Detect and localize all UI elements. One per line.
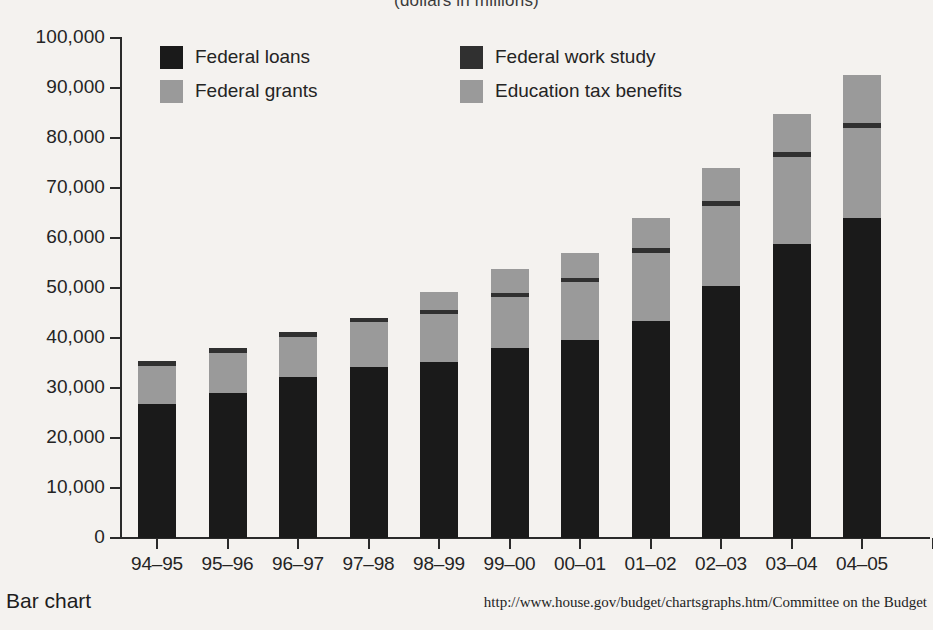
y-tick [110,237,121,239]
bar-segment [350,367,388,539]
y-tick-label: 10,000 [5,476,105,498]
y-tick-label: 60,000 [5,226,105,248]
bar-segment [632,218,670,248]
legend-swatch-icon [160,46,183,69]
x-tick-label: 00–01 [540,553,620,575]
x-tick [650,538,652,549]
bar-segment [843,128,881,218]
bar-segment [843,75,881,123]
bar-94-95 [138,361,176,538]
bar-segment [632,321,670,539]
bar-segment [209,353,247,394]
legend-item: Federal loans [160,46,460,69]
bar-segment [702,286,740,539]
legend-swatch-icon [460,46,483,69]
bar-95-96 [209,348,247,538]
y-tick [110,437,121,439]
x-tick-label: 03–04 [752,553,832,575]
bar-01-02 [632,218,670,538]
bar-segment [279,337,317,377]
x-tick-label: 97–98 [329,553,409,575]
bar-segment [491,348,529,539]
legend-label: Federal grants [195,80,318,102]
legend-label: Education tax benefits [495,80,682,102]
y-tick-label: 30,000 [5,376,105,398]
legend-swatch-icon [460,80,483,103]
legend-label: Federal loans [195,46,310,68]
chart-legend: Federal loansFederal work studyFederal g… [160,40,740,108]
y-tick [110,187,121,189]
legend-item: Education tax benefits [460,80,760,103]
y-tick-label: 90,000 [5,76,105,98]
legend-item: Federal grants [160,80,460,103]
bar-segment [773,244,811,538]
y-tick [110,287,121,289]
x-tick-label: 94–95 [117,553,197,575]
bar-02-03 [702,168,740,538]
footer-source-url: http://www.house.gov/budget/chartsgraphs… [484,594,927,611]
bar-segment [702,206,740,286]
bar-99-00 [491,269,529,539]
y-tick [110,337,121,339]
x-tick [438,538,440,549]
bar-segment [632,253,670,321]
y-tick-label: 70,000 [5,176,105,198]
x-tick [368,538,370,549]
y-tick-label: 40,000 [5,326,105,348]
x-tick [227,538,229,549]
legend-swatch-icon [160,80,183,103]
y-tick-label: 80,000 [5,126,105,148]
bar-segment [420,314,458,362]
bar-97-98 [350,318,388,539]
bar-segment [138,404,176,538]
x-tick-label: 95–96 [188,553,268,575]
y-tick [110,537,121,539]
y-tick-label: 100,000 [5,26,105,48]
bar-segment [561,340,599,539]
y-tick [110,37,121,39]
y-tick-label: 50,000 [5,276,105,298]
y-tick [110,137,121,139]
x-tick-label: 04–05 [822,553,902,575]
bar-segment [420,362,458,538]
bar-segment [491,269,529,293]
bar-96-97 [279,332,317,538]
y-tick-label: 20,000 [5,426,105,448]
x-tick-label: 99–00 [470,553,550,575]
y-tick [110,387,121,389]
x-tick-label: 01–02 [611,553,691,575]
bar-segment [843,218,881,538]
legend-item: Federal work study [460,46,760,69]
y-tick-label: 0 [5,526,105,548]
y-tick [110,87,121,89]
bar-segment [350,322,388,367]
bar-04-05 [843,75,881,538]
bar-segment [702,168,740,201]
x-tick [861,538,863,549]
bar-98-99 [420,292,458,538]
bar-segment [209,393,247,538]
bar-segment [138,366,176,404]
bar-00-01 [561,253,599,538]
bar-segment [491,297,529,348]
x-tick [297,538,299,549]
x-tick [156,538,158,549]
bar-segment [420,292,458,310]
x-tick-label: 02–03 [681,553,761,575]
footer-type-label: Bar chart [6,589,91,613]
legend-label: Federal work study [495,46,656,68]
bar-03-04 [773,114,811,539]
x-tick [579,538,581,549]
x-tick-label: 96–97 [258,553,338,575]
x-tick [791,538,793,549]
bar-segment [279,377,317,539]
x-tick [720,538,722,549]
bar-segment [773,114,811,153]
x-tick-label: 98–99 [399,553,479,575]
x-tick [509,538,511,549]
bar-segment [561,282,599,340]
y-tick [110,487,121,489]
chart-page: (dollars in millions) 010,00020,00030,00… [0,0,933,630]
bar-segment [773,157,811,244]
bar-segment [561,253,599,278]
